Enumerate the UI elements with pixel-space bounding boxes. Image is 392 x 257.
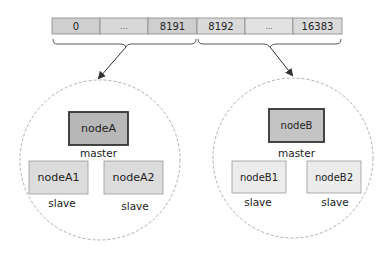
node-a-master-role: master bbox=[80, 147, 118, 159]
node-a1-label: nodeA1 bbox=[38, 171, 80, 184]
node-b1-role: slave bbox=[244, 196, 272, 208]
slot-cell-3-label: 8192 bbox=[208, 21, 233, 32]
arrow-to-group-b bbox=[270, 47, 292, 75]
node-b1-label: nodeB1 bbox=[240, 172, 278, 183]
brace-right bbox=[198, 39, 341, 47]
group-a: nodeA master nodeA1 slave nodeA2 slave bbox=[20, 80, 180, 240]
slot-cell-2-label: 8191 bbox=[160, 21, 185, 32]
slot-bar: 0 ... 8191 8192 ... 16383 bbox=[52, 18, 342, 34]
slot-cell-0-label: 0 bbox=[73, 21, 79, 32]
group-b: nodeB master nodeB1 slave nodeB2 slave bbox=[213, 78, 373, 238]
node-a-master-label: nodeA bbox=[81, 122, 116, 135]
arrow-to-group-a bbox=[99, 47, 126, 78]
node-b-master-label: nodeB bbox=[281, 120, 313, 131]
node-a1-role: slave bbox=[48, 197, 76, 209]
group-a-circle bbox=[20, 80, 180, 240]
node-b2-role: slave bbox=[321, 196, 349, 208]
node-a2-role: slave bbox=[121, 200, 149, 212]
node-a2-label: nodeA2 bbox=[113, 171, 155, 184]
slot-cell-5-label: 16383 bbox=[302, 21, 334, 32]
slot-cell-1-label: ... bbox=[120, 22, 128, 31]
slot-cell-4-label: ... bbox=[265, 22, 273, 31]
node-b2-label: nodeB2 bbox=[315, 172, 353, 183]
cluster-diagram: 0 ... 8191 8192 ... 16383 nodeA master n… bbox=[0, 0, 392, 257]
brace-left bbox=[53, 39, 196, 47]
node-b-master-role: master bbox=[278, 147, 316, 159]
